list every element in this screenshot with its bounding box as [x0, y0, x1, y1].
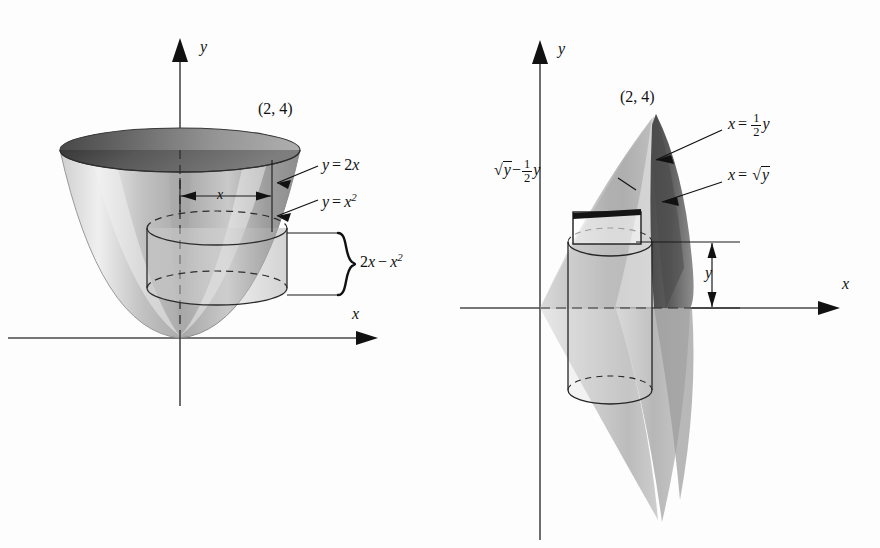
point-label-left: (2, 4): [258, 100, 293, 118]
curve-label-x-equals-sqrt-y: x=√y: [728, 166, 770, 184]
fraction-one-half: 12: [751, 112, 761, 138]
height-marker-label-y: y: [705, 265, 712, 281]
solid-dark-lobe: [650, 114, 693, 308]
x-axis-label-right: x: [842, 275, 849, 293]
thickness-slab: [573, 209, 641, 244]
radius-marker-label-x: x: [217, 188, 223, 202]
figure-washer-method: y x (2, 4) x=12y x=√y √y−12y y: [440, 0, 880, 548]
figure-left-svg: | -->: [0, 0, 440, 548]
radical-icon-2: √y: [492, 161, 512, 179]
washer-slice-cylinder: [568, 228, 652, 404]
y-axis-label-left: y: [200, 38, 207, 56]
fraction-one-half-2: 12: [522, 158, 532, 184]
curve-label-y-equals-x-squared: y=x2: [322, 192, 357, 210]
radical-icon: √y: [750, 166, 770, 184]
curve-label-x-equals-half-y: x=12y: [728, 112, 769, 138]
x-axis-label-left: x: [352, 305, 359, 323]
y-axis-label-right: y: [558, 40, 565, 58]
figure-right-svg: [440, 0, 880, 548]
point-label-right: (2, 4): [620, 88, 655, 106]
height-label-2x-minus-x-squared: 2x−x2: [360, 252, 403, 270]
height-brace: [287, 233, 355, 295]
diagram-canvas: | --> y x: [0, 0, 880, 548]
curve-label-y-equals-2x: y=2x: [322, 157, 359, 173]
thickness-label-sqrt-y-minus-half-y: √y−12y: [492, 158, 540, 184]
figure-shell-method: | --> y x: [0, 0, 440, 548]
